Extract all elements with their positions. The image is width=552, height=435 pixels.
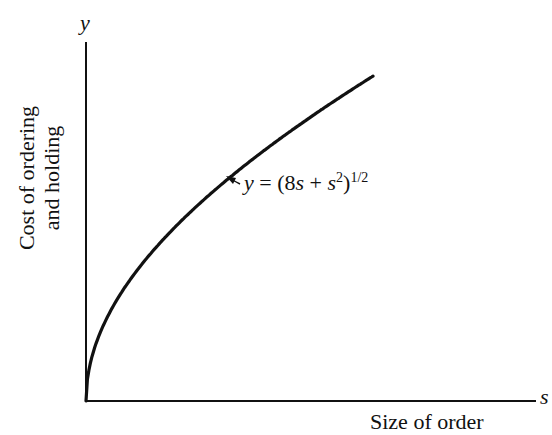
curve-equation: y = (8s + s2)1/2: [244, 170, 368, 196]
y-axis-label-line2: and holding: [39, 38, 64, 318]
x-axis-label: Size of order: [370, 409, 484, 435]
y-axis-label-line1: Cost of ordering: [14, 38, 39, 318]
chart-canvas: [0, 0, 552, 435]
x-axis-symbol: s: [540, 384, 549, 410]
cost-curve: [86, 76, 373, 401]
y-axis-symbol: y: [80, 10, 90, 36]
